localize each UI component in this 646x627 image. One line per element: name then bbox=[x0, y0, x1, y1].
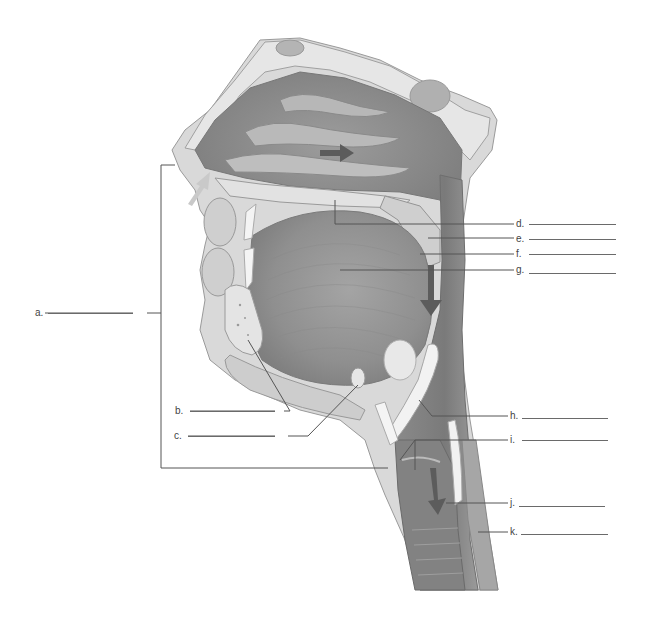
answer-blank-d[interactable] bbox=[529, 224, 616, 225]
lingual-tonsil bbox=[384, 340, 416, 380]
label-k: k. bbox=[510, 527, 518, 537]
label-c: c. bbox=[174, 431, 182, 441]
answer-blank-c[interactable] bbox=[188, 436, 275, 437]
answer-blank-j[interactable] bbox=[519, 506, 605, 507]
diagram-canvas: a. b. c. d. e. f. g. h. i. j. k. bbox=[0, 0, 646, 627]
label-a: a. bbox=[35, 308, 43, 318]
label-b: b. bbox=[175, 406, 183, 416]
label-e: e. bbox=[516, 234, 524, 244]
answer-blank-a[interactable] bbox=[48, 313, 133, 314]
frontal-sinus bbox=[276, 40, 304, 56]
answer-blank-g[interactable] bbox=[529, 273, 616, 274]
label-h: h. bbox=[510, 411, 518, 421]
upper-lip bbox=[204, 198, 236, 246]
label-g: g. bbox=[516, 265, 524, 275]
answer-blank-f[interactable] bbox=[529, 254, 616, 255]
label-f: f. bbox=[516, 249, 522, 259]
answer-blank-h[interactable] bbox=[522, 418, 608, 419]
answer-blank-b[interactable] bbox=[190, 411, 275, 412]
answer-blank-k[interactable] bbox=[521, 534, 608, 535]
answer-blank-e[interactable] bbox=[529, 239, 616, 240]
label-i: i. bbox=[510, 435, 515, 445]
answer-blank-i[interactable] bbox=[522, 440, 608, 441]
label-d: d. bbox=[516, 219, 524, 229]
label-j: j. bbox=[510, 498, 515, 508]
